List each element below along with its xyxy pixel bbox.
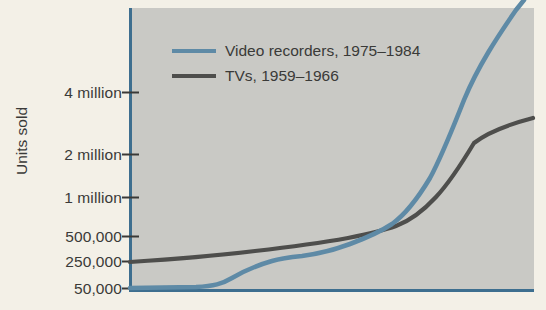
legend-item-tvs: TVs, 1959–1966 bbox=[172, 63, 472, 88]
y-tick-label-1-million: 1 million bbox=[64, 190, 122, 206]
y-axis-title: Units sold bbox=[13, 86, 31, 196]
y-tick-label-500000: 500,000 bbox=[65, 229, 122, 245]
y-tick-label-4-million: 4 million bbox=[64, 85, 122, 101]
legend-label-tvs: TVs, 1959–1966 bbox=[225, 68, 339, 84]
legend-item-video-recorders: Video recorders, 1975–1984 bbox=[172, 38, 472, 63]
legend-swatch-video-recorders bbox=[172, 49, 216, 53]
legend-swatch-tvs bbox=[172, 74, 216, 78]
y-tick-label-2-million: 2 million bbox=[64, 147, 122, 163]
y-tick-label-250000: 250,000 bbox=[65, 254, 122, 270]
y-tick-label-50000: 50,000 bbox=[74, 281, 122, 297]
chart-figure: 4 million 2 million 1 million 500,000 25… bbox=[0, 0, 546, 310]
series-line-tvs bbox=[130, 118, 533, 262]
legend-label-video-recorders: Video recorders, 1975–1984 bbox=[225, 43, 420, 59]
chart-legend: Video recorders, 1975–1984 TVs, 1959–196… bbox=[172, 38, 472, 88]
